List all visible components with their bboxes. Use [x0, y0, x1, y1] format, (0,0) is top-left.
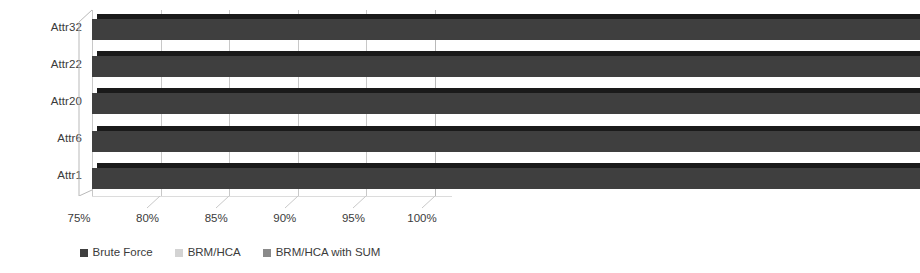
bar-segment-attr1-s1: [92, 168, 920, 189]
legend-swatch-icon: [175, 249, 183, 257]
bar-segment-attr32-s1: [92, 19, 920, 40]
bar-stack: [92, 131, 920, 152]
value-axis-label-75: 75%: [49, 212, 109, 224]
legend-swatch-icon: [263, 249, 271, 257]
bar-segment-attr22-s1: [92, 56, 920, 77]
legend-item-1[interactable]: Brute Force: [80, 247, 153, 259]
bar-row-attr20: [92, 88, 435, 114]
value-axis-label-100: 100%: [392, 212, 452, 224]
bar-stack: [92, 56, 920, 77]
legend-label: Brute Force: [93, 247, 153, 259]
axis-floor-3d: [92, 196, 452, 212]
legend-label: BRM/HCA with SUM: [276, 247, 381, 259]
plot-area: [92, 10, 435, 196]
bar-row-attr6: [92, 126, 435, 152]
bar-row-attr1: [92, 163, 435, 189]
bar-row-attr22: [92, 51, 435, 77]
bar-stack: [92, 19, 920, 40]
legend-item-2[interactable]: BRM/HCA: [175, 247, 241, 259]
bar-stack: [92, 168, 920, 189]
category-axis-labels: Attr32Attr22Attr20Attr6Attr1: [6, 10, 82, 196]
value-axis-label-85: 85%: [186, 212, 246, 224]
legend-item-3[interactable]: BRM/HCA with SUM: [263, 247, 381, 259]
legend-label: BRM/HCA: [188, 247, 241, 259]
bar-row-attr32: [92, 14, 435, 40]
value-axis-label-80: 80%: [118, 212, 178, 224]
category-label-attr6: Attr6: [6, 132, 82, 144]
value-axis-label-95: 95%: [323, 212, 383, 224]
value-axis-labels: 75%80%85%90%95%100%: [0, 212, 460, 230]
category-label-attr22: Attr22: [6, 58, 82, 70]
bar-stack: [92, 93, 920, 114]
bar-segment-attr6-s1: [92, 131, 920, 152]
bar-segment-attr20-s1: [92, 93, 920, 114]
value-axis-label-90: 90%: [255, 212, 315, 224]
category-label-attr1: Attr1: [6, 169, 82, 181]
category-label-attr20: Attr20: [6, 95, 82, 107]
legend-swatch-icon: [80, 249, 88, 257]
chart-legend: Brute ForceBRM/HCABRM/HCA with SUM: [0, 243, 460, 263]
category-label-attr32: Attr32: [6, 21, 82, 33]
